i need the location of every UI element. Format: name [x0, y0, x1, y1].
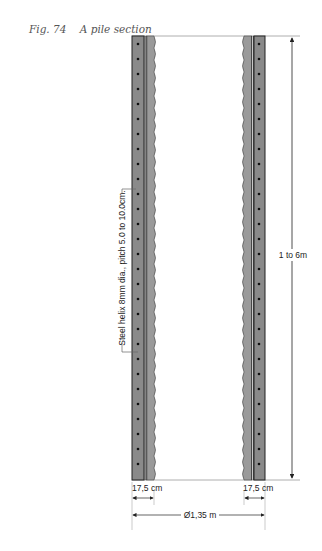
helix-label: Steel helix 8mm dia., pitch 5.0 to 10.0c…	[117, 190, 127, 345]
diameter-label: Ø1,35 m	[184, 510, 217, 520]
pile-section-diagram: 1 to 6m Steel helix 8mm dia., pitch 5.0 …	[0, 0, 322, 551]
right-wall	[243, 36, 266, 480]
wall-thickness-right-dimension: 17,5 cm	[243, 482, 273, 530]
left-wall	[132, 36, 156, 480]
wall-thickness-right-label: 17,5 cm	[243, 483, 273, 493]
height-dimension: 1 to 6m	[279, 38, 307, 478]
height-label: 1 to 6m	[279, 250, 307, 260]
wall-thickness-left-dimension: 17,5 cm	[132, 482, 162, 530]
diameter-dimension: Ø1,35 m	[133, 508, 264, 520]
wall-thickness-left-label: 17,5 cm	[132, 483, 162, 493]
